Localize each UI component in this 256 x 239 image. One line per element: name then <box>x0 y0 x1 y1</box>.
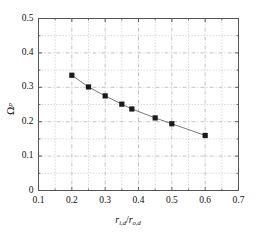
data-point-marker <box>203 133 208 138</box>
data-point-marker <box>129 106 134 111</box>
data-point-marker <box>103 93 108 98</box>
data-point-marker <box>169 121 174 126</box>
data-point-marker <box>119 102 124 107</box>
data-point-marker <box>86 84 91 89</box>
data-point-marker <box>69 73 74 78</box>
data-point-marker <box>153 115 158 120</box>
chart-figure: Ωp ri,d/ro,d 00.10.20.30.40.5 0.10.20.30… <box>0 0 256 239</box>
plot-area <box>0 0 256 239</box>
